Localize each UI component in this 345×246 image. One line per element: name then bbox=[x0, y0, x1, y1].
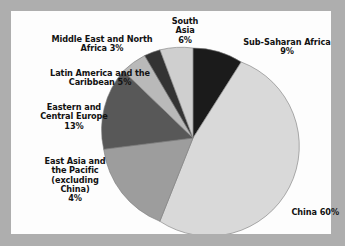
pie-label-china: China 60% bbox=[263, 208, 339, 217]
pie-chart-panel: South Asia 6% Middle East and North Afri… bbox=[11, 11, 331, 234]
pie-label-latin-america-caribbean: Latin America and the Caribbean 5% bbox=[27, 69, 173, 88]
pie-label-middle-east-north-africa: Middle East and North Africa 3% bbox=[32, 35, 172, 54]
pie-label-east-asia-pacific: East Asia and the Pacific (excluding Chi… bbox=[23, 157, 127, 203]
pie-label-sub-saharan-africa: Sub-Saharan Africa 9% bbox=[226, 38, 345, 57]
pie-label-eastern-central-europe: Eastern and Central Europe 13% bbox=[24, 103, 124, 131]
figure-frame: South Asia 6% Middle East and North Afri… bbox=[0, 0, 345, 246]
